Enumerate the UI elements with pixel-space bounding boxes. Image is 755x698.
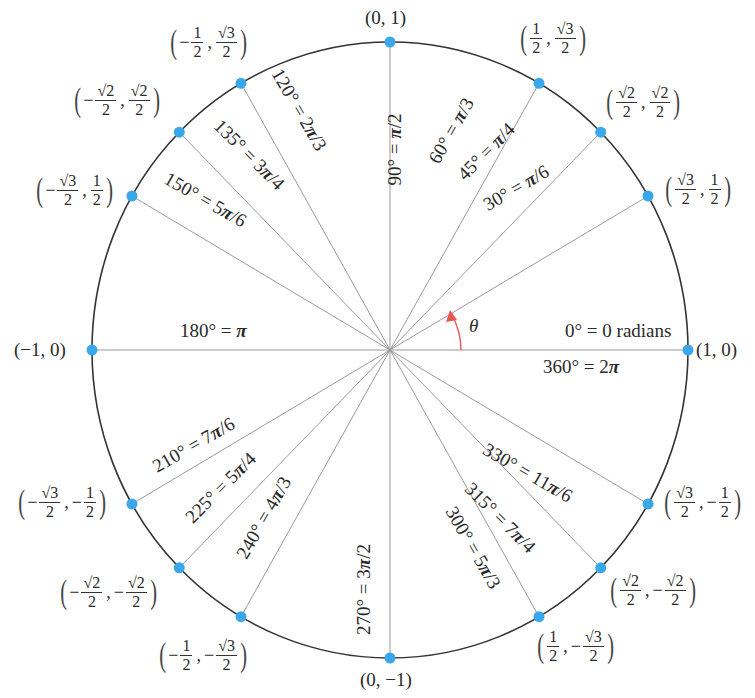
angle-label-0: 0° = 0 radians [565, 321, 671, 340]
point-120 [236, 78, 247, 89]
point-225 [174, 562, 185, 573]
angle-label-90: 90° = π/2 [385, 114, 404, 186]
point-0 [683, 345, 694, 356]
point-240 [236, 611, 247, 622]
coord-label-60: ( 12 , √32 ) [518, 20, 588, 56]
coord-label-225: ( − √22 , − √22 ) [58, 574, 159, 610]
ray-135 [179, 132, 390, 350]
coord-label-330: ( √32 , − 12 ) [662, 484, 743, 520]
angle-label-360: 360° = 2π [543, 357, 619, 376]
coord-label-120: ( − 12 , √32 ) [168, 24, 249, 60]
theta-arc [446, 310, 461, 350]
coord-label-0: (1, 0) [696, 340, 737, 359]
point-270 [385, 653, 396, 664]
point-210 [126, 499, 137, 510]
ray-300 [390, 350, 539, 617]
ray-45 [390, 132, 601, 350]
coord-label-135: ( − √22 , √22 ) [72, 82, 162, 118]
unit-circle-diagram: θ 0° = 0 radians 360° = 2π 30° = π/6 45°… [0, 0, 755, 698]
point-315 [595, 562, 606, 573]
coord-label-270: (0, −1) [360, 670, 412, 689]
coord-label-240: ( − 12 , − √32 ) [157, 637, 249, 673]
coord-label-315: ( √22 , − √22 ) [608, 572, 698, 608]
ray-225 [179, 350, 390, 568]
point-180 [87, 345, 98, 356]
point-150 [126, 191, 137, 202]
point-60 [534, 78, 545, 89]
point-30 [643, 191, 654, 202]
point-135 [174, 127, 185, 138]
coord-label-30: ( √32 , 12 ) [663, 171, 733, 207]
theta-symbol: θ [469, 315, 478, 337]
ray-150 [132, 196, 390, 350]
coord-label-150: ( − √32 , 12 ) [34, 172, 115, 208]
coord-label-300: ( 12 , − √32 ) [535, 628, 616, 664]
coord-label-90: (0, 1) [365, 8, 406, 27]
coord-label-45: ( √22 , √22 ) [604, 84, 683, 120]
angle-label-270: 270° = 3π/2 [354, 544, 373, 635]
coord-label-180: (−1, 0) [14, 340, 66, 359]
angle-label-180: 180° = π [180, 321, 247, 340]
point-300 [534, 611, 545, 622]
point-45 [595, 127, 606, 138]
coord-label-210: ( − √32 , − 12 ) [16, 484, 108, 520]
point-90 [385, 37, 396, 48]
point-330 [643, 499, 654, 510]
ray-210 [132, 350, 390, 504]
